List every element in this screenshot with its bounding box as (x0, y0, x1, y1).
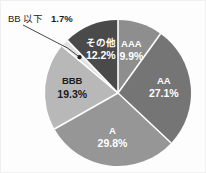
callout-label-value: 1.7% (51, 13, 73, 24)
slice-label-name-a: A (109, 125, 116, 136)
slice-label-value-その他: 12.2% (86, 49, 116, 61)
pie-chart-figure: AAA9.9%AA27.1%A29.8%BBB19.3%その他12.2% BB … (0, 0, 206, 173)
slice-label-name-その他: その他 (86, 37, 116, 48)
slice-label-name-aa: AA (157, 75, 171, 86)
slice-label-name-aaa: AAA (121, 38, 142, 49)
callout-dot-marker (77, 55, 81, 59)
slice-label-value-a: 29.8% (98, 137, 128, 149)
pie-chart-svg: AAA9.9%AA27.1%A29.8%BBB19.3%その他12.2% BB … (1, 1, 206, 173)
slice-label-value-bbb: 19.3% (57, 88, 87, 100)
callout-label-name: BB 以下 (8, 13, 43, 24)
slice-label-value-aa: 27.1% (149, 87, 179, 99)
slice-label-value-aaa: 9.9% (119, 50, 144, 62)
slice-label-name-bbb: BBB (62, 75, 83, 86)
